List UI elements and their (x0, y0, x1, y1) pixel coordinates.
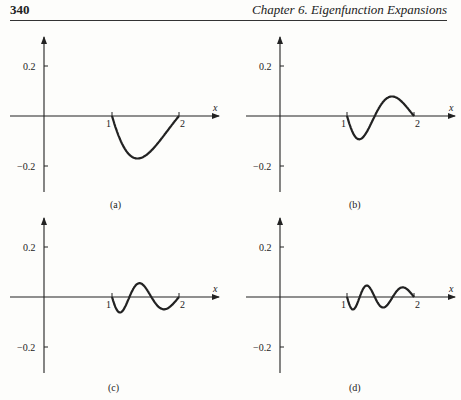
panel-caption: (a) (110, 199, 121, 211)
eigenfunction-curve (347, 97, 414, 140)
x-tick-label-2: 2 (415, 299, 420, 310)
plot-panel-a: 0.2 −0.2 1 2 x (a) (10, 37, 219, 211)
y-tick-label-neg: −0.2 (17, 161, 35, 172)
y-tick-label-neg: −0.2 (253, 342, 271, 353)
y-tick-label-pos: 0.2 (23, 242, 36, 253)
panel-caption: (d) (349, 382, 361, 394)
x-axis-label: x (448, 102, 454, 113)
x-axis-label: x (212, 283, 218, 294)
y-tick-label-neg: −0.2 (253, 161, 271, 172)
x-tick-label-2: 2 (180, 299, 185, 310)
eigenfunction-curve (112, 116, 179, 159)
panel-caption: (c) (108, 382, 119, 394)
y-tick-label-pos: 0.2 (259, 242, 272, 253)
y-tick-label-pos: 0.2 (259, 61, 272, 72)
eigenfunction-curve (112, 283, 179, 312)
panel-caption: (b) (349, 199, 361, 211)
plot-panel-c: 0.2 −0.2 1 2 x (c) (10, 218, 219, 394)
figure: 0.2 −0.2 1 2 x (a) 0.2 −0.2 1 2 x (b) 0.… (0, 0, 461, 400)
y-tick-label-neg: −0.2 (17, 342, 35, 353)
x-tick-label-1: 1 (341, 299, 346, 310)
x-axis-label: x (212, 102, 218, 113)
x-tick-label-1: 1 (106, 118, 111, 129)
x-tick-label-1: 1 (341, 118, 346, 129)
plot-panel-b: 0.2 −0.2 1 2 x (b) (246, 37, 455, 211)
x-axis-label: x (448, 283, 454, 294)
x-tick-label-2: 2 (180, 118, 185, 129)
x-tick-label-2: 2 (415, 118, 420, 129)
x-tick-label-1: 1 (106, 299, 111, 310)
y-tick-label-pos: 0.2 (23, 61, 36, 72)
plot-panel-d: 0.2 −0.2 1 2 x (d) (246, 218, 455, 394)
